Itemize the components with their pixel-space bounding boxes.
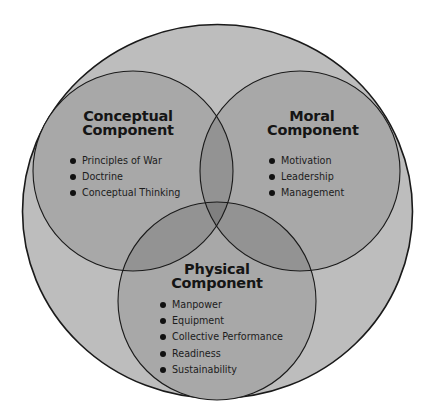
bullet-icon [269, 174, 275, 180]
bullet-icon [160, 334, 166, 340]
physical-component-title: Physical Component [158, 262, 276, 290]
physical-component: Physical Component Manpower Equipment Co… [158, 262, 288, 378]
list-item: Equipment [160, 313, 288, 329]
physical-title-line2: Component [158, 276, 276, 290]
bullet-icon [160, 318, 166, 324]
list-item: Collective Performance [160, 329, 288, 345]
list-item: Leadership [269, 169, 357, 185]
conceptual-title-line2: Component [66, 123, 190, 137]
bullet-icon [269, 158, 275, 164]
moral-component: Moral Component Motivation Leadership Ma… [267, 109, 357, 202]
list-item: Doctrine [70, 169, 188, 185]
list-item: Motivation [269, 153, 357, 169]
list-item: Manpower [160, 297, 288, 313]
bullet-icon [70, 174, 76, 180]
bullet-icon [70, 190, 76, 196]
bullet-icon [160, 367, 166, 373]
physical-title-line1: Physical [158, 262, 276, 276]
list-item: Conceptual Thinking [70, 185, 188, 201]
moral-title-line2: Component [267, 123, 357, 137]
list-item: Readiness [160, 346, 288, 362]
bullet-icon [160, 302, 166, 308]
moral-title-line1: Moral [267, 109, 357, 123]
physical-item-list: Manpower Equipment Collective Performanc… [160, 297, 288, 378]
conceptual-component-title: Conceptual Component [66, 109, 190, 137]
list-item: Principles of War [70, 153, 188, 169]
moral-item-list: Motivation Leadership Management [269, 153, 357, 202]
list-item: Sustainability [160, 362, 288, 378]
conceptual-title-line1: Conceptual [66, 109, 190, 123]
list-item: Management [269, 185, 357, 201]
bullet-icon [160, 351, 166, 357]
conceptual-item-list: Principles of War Doctrine Conceptual Th… [70, 153, 188, 202]
conceptual-component: Conceptual Component Principles of War D… [68, 109, 188, 202]
bullet-icon [269, 190, 275, 196]
moral-component-title: Moral Component [267, 109, 357, 137]
bullet-icon [70, 158, 76, 164]
